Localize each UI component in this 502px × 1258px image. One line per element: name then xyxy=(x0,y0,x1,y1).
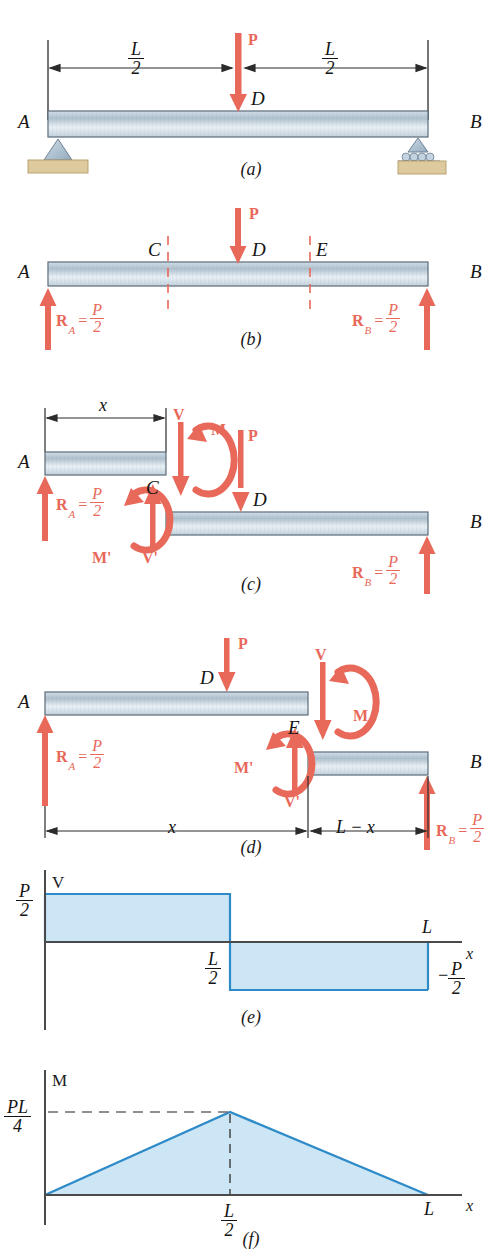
shear-x-axis-label: x xyxy=(466,946,473,962)
dimension-x xyxy=(47,415,164,421)
moment-label-m-prime: M' xyxy=(92,550,112,566)
point-label-d: D xyxy=(200,668,214,687)
reaction-a-symbol: R xyxy=(56,496,68,514)
reaction-a-symbol: R xyxy=(56,312,68,330)
point-label-a: A xyxy=(18,262,30,281)
moment-end-tick: L xyxy=(424,1200,434,1218)
shear-arrow-v xyxy=(314,662,332,740)
reaction-a-value: P 2 xyxy=(90,486,104,521)
beam-member xyxy=(48,262,428,286)
load-label-p: P xyxy=(248,32,258,48)
shear-positive-area xyxy=(45,894,230,942)
dim-left-numerator: L xyxy=(128,40,144,58)
moment-label-m: M xyxy=(211,422,226,438)
reaction-a-subscript: A xyxy=(69,508,76,520)
load-label-p: P xyxy=(248,428,258,444)
point-label-b: B xyxy=(470,262,482,281)
reaction-a-equals: = xyxy=(78,748,87,766)
reaction-a-denominator: 2 xyxy=(90,754,104,772)
reaction-a-numerator: P xyxy=(90,302,104,319)
moment-peak-numerator: PL xyxy=(4,1098,31,1116)
load-arrow-p xyxy=(230,208,247,264)
load-label-p: P xyxy=(249,206,259,222)
point-label-b: B xyxy=(470,512,482,531)
reaction-a-equals: = xyxy=(78,496,87,514)
shear-y-axis-label: V xyxy=(52,874,64,891)
shear-bottom-value: P 2 xyxy=(448,960,465,998)
reaction-a-equals: = xyxy=(78,312,87,330)
moment-y-axis-label: M xyxy=(52,1072,67,1089)
caption-f: (f) xyxy=(0,1230,502,1248)
reaction-b-numerator: P xyxy=(386,554,400,571)
reaction-a-numerator: P xyxy=(90,738,104,755)
point-label-a: A xyxy=(18,692,30,711)
moment-peak-value: PL 4 xyxy=(4,1098,31,1136)
shear-label-v: V xyxy=(315,647,327,663)
point-label-e: E xyxy=(288,718,300,737)
reaction-b-numerator: P xyxy=(470,812,484,829)
dimension-label-left: L 2 xyxy=(128,40,144,78)
beam-segment-right xyxy=(166,512,428,535)
panel-d-graphic xyxy=(0,600,502,862)
point-label-c: C xyxy=(146,478,159,497)
dimension-label-x: x xyxy=(99,396,107,414)
dim-left-denominator: 2 xyxy=(128,58,144,77)
caption-e: (e) xyxy=(0,1008,502,1026)
point-label-d: D xyxy=(251,89,265,108)
shear-bottom-sign: − xyxy=(437,966,449,984)
beam-segment-right xyxy=(308,752,428,775)
shear-label-v-prime: V' xyxy=(142,550,158,566)
shear-top-numerator: P xyxy=(16,882,33,900)
shear-end-tick: L xyxy=(422,918,432,936)
panel-e: V x P 2 L 2 L P 2 − (e) xyxy=(0,862,502,1040)
reaction-a-denominator: 2 xyxy=(90,502,104,520)
shear-label-v: V xyxy=(173,407,185,423)
point-label-a: A xyxy=(18,112,30,131)
caption-c: (c) xyxy=(0,575,502,593)
dimension-label-x: x xyxy=(168,818,176,836)
dim-right-denominator: 2 xyxy=(322,58,338,77)
panel-c: A C D B x V M P V' M' R A = P 2 R B = P … xyxy=(0,360,502,600)
point-label-a: A xyxy=(18,452,30,471)
moment-arrow-m xyxy=(329,666,376,736)
reaction-a-numerator: P xyxy=(90,486,104,503)
reaction-arrow-a xyxy=(37,476,54,541)
panel-c-graphic xyxy=(0,360,502,600)
caption-b: (b) xyxy=(0,330,502,348)
shear-arrow-v xyxy=(172,422,190,496)
point-label-b: B xyxy=(470,112,482,131)
dimension-label-right: L 2 xyxy=(322,40,338,78)
reaction-a-subscript: A xyxy=(69,760,76,772)
point-label-e: E xyxy=(316,240,328,259)
reaction-label-a: R A = P 2 xyxy=(56,488,104,523)
caption-a: (a) xyxy=(0,160,502,178)
dimension-label-l-minus-x: L − x xyxy=(336,818,375,836)
moment-diagram xyxy=(0,1040,502,1258)
point-label-b: B xyxy=(470,752,482,771)
reaction-b-equals: = xyxy=(374,312,383,330)
moment-area xyxy=(45,1112,428,1195)
beam-segment-left xyxy=(45,452,166,475)
moment-label-m: M xyxy=(353,708,368,724)
shear-top-value: P 2 xyxy=(16,882,33,920)
shear-bottom-denominator: 2 xyxy=(448,978,465,997)
load-label-p: P xyxy=(238,636,248,652)
moment-x-axis-label: x xyxy=(466,1198,473,1214)
panel-a: A B D P L 2 L 2 (a) xyxy=(0,0,502,192)
reaction-arrow-a xyxy=(37,715,54,806)
moment-mid-numerator: L xyxy=(221,1202,237,1220)
shear-negative-area xyxy=(230,942,428,990)
point-label-d: D xyxy=(253,490,267,509)
panel-d: A D E B P V M V' M' x L − x R A = P 2 R … xyxy=(0,600,502,862)
reaction-b-numerator: P xyxy=(386,302,400,319)
moment-label-m-prime: M' xyxy=(234,760,254,776)
load-arrow-p xyxy=(230,33,248,112)
shear-mid-denominator: 2 xyxy=(205,968,221,987)
beam-member xyxy=(48,111,428,137)
reaction-label-a: R A = P 2 xyxy=(56,740,104,775)
shear-top-denominator: 2 xyxy=(16,900,33,919)
shear-mid-tick: L 2 xyxy=(205,950,221,988)
point-label-d: D xyxy=(252,240,266,259)
shear-label-v-prime: V' xyxy=(284,794,300,810)
panel-b: A B C D E P R A = P 2 R B = P 2 (b) xyxy=(0,192,502,360)
